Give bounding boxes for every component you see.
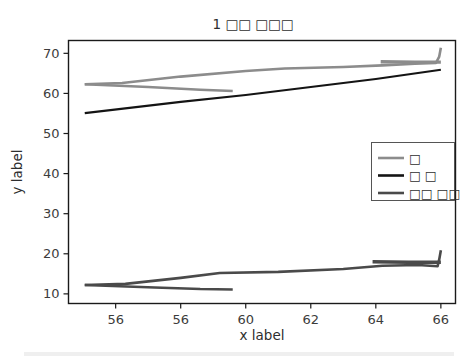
legend-label: □: [409, 151, 421, 166]
series-line: [85, 48, 441, 84]
y-axis-label: y label: [9, 150, 25, 195]
y-tick-label: 10: [43, 286, 60, 301]
y-tick-label: 70: [43, 46, 60, 61]
x-tick-label: 66: [433, 312, 450, 327]
y-tick-label: 50: [43, 126, 60, 141]
series-line: [85, 70, 441, 113]
x-axis-ticks: 565660626466: [107, 304, 449, 327]
footer-divider-band: [24, 352, 454, 356]
chart-title: 1 □□ □□□: [213, 16, 294, 32]
y-tick-label: 30: [43, 206, 60, 221]
x-tick-label: 56: [107, 312, 124, 327]
y-tick-label: 60: [43, 86, 60, 101]
legend-label: □ □: [409, 168, 437, 183]
series-line: [85, 84, 233, 91]
x-tick-label: 56: [172, 312, 189, 327]
series-line: [85, 285, 233, 289]
x-tick-label: 64: [368, 312, 385, 327]
x-tick-label: 62: [303, 312, 320, 327]
y-tick-label: 20: [43, 246, 60, 261]
y-tick-label: 40: [43, 166, 60, 181]
line-chart: 1 □□ □□□ 10203040506070 565660626466 x l…: [0, 0, 476, 358]
x-tick-label: 60: [237, 312, 254, 327]
legend-label: □□ □□: [409, 186, 460, 201]
chart-legend[interactable]: □□ □□□ □□: [372, 143, 461, 201]
x-axis-label: x label: [240, 327, 285, 343]
chart-figure: 1 □□ □□□ 10203040506070 565660626466 x l…: [0, 0, 476, 358]
y-axis-ticks: 10203040506070: [43, 46, 69, 302]
series-line: [85, 250, 441, 285]
